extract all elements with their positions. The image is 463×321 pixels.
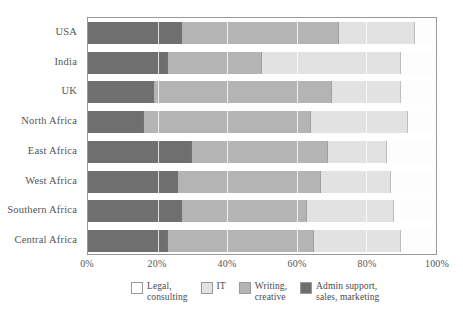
bar-segment xyxy=(314,230,401,252)
bar-segment xyxy=(311,111,408,133)
legend-swatch-icon xyxy=(131,282,143,294)
bar-row xyxy=(88,52,436,74)
x-axis-labels: 0%20%40%60%80%100% xyxy=(87,258,437,274)
bar-row xyxy=(88,141,436,163)
y-axis-tick-label: Central Africa xyxy=(14,234,77,245)
bar-segment xyxy=(88,81,154,103)
legend-swatch-icon xyxy=(239,282,251,294)
bar-segment xyxy=(144,111,311,133)
bar-segment xyxy=(192,141,328,163)
bar-segment xyxy=(401,230,436,252)
bar-segment xyxy=(88,171,178,193)
legend-label: Admin support, sales, marketing xyxy=(316,281,379,302)
legend-item-admin-support-sales-marketing[interactable]: Admin support, sales, marketing xyxy=(300,281,379,302)
legend-label: IT xyxy=(217,281,226,292)
bar-segment xyxy=(88,200,182,222)
bar-segment xyxy=(332,81,402,103)
legend-swatch-icon xyxy=(300,282,312,294)
y-axis-labels: USAIndiaUKNorth AfricaEast AfricaWest Af… xyxy=(0,17,82,255)
bar-segment xyxy=(321,171,391,193)
y-axis-tick-label: India xyxy=(54,56,77,67)
legend-item-legal-consulting[interactable]: Legal, consulting xyxy=(131,281,188,302)
y-axis-tick-label: USA xyxy=(55,26,77,37)
bar-row xyxy=(88,111,436,133)
x-axis-tick-label: 40% xyxy=(218,258,237,270)
x-axis-tick-label: 60% xyxy=(288,258,307,270)
legend-label: Writing, creative xyxy=(255,281,287,302)
x-axis-tick-label: 100% xyxy=(425,258,449,270)
bar-row xyxy=(88,230,436,252)
stacked-bar-chart: USAIndiaUKNorth AfricaEast AfricaWest Af… xyxy=(0,0,463,321)
bar-row xyxy=(88,22,436,44)
bar-segment xyxy=(394,200,436,222)
legend-swatch-icon xyxy=(201,282,213,294)
bar-segment xyxy=(339,22,416,44)
x-axis-tick-label: 0% xyxy=(80,258,94,270)
y-axis-tick-label: Southern Africa xyxy=(7,204,77,215)
plot-area xyxy=(87,17,437,255)
bar-row xyxy=(88,171,436,193)
bar-segment xyxy=(262,52,401,74)
y-axis-tick-label: West Africa xyxy=(25,175,77,186)
x-axis-tick-label: 80% xyxy=(358,258,377,270)
bar-segment xyxy=(182,22,339,44)
bar-row xyxy=(88,200,436,222)
y-axis-tick-label: UK xyxy=(61,85,77,96)
bar-segment xyxy=(88,22,182,44)
bar-segment xyxy=(178,171,321,193)
bar-segment xyxy=(328,141,387,163)
bar-segment xyxy=(387,141,436,163)
bar-segment xyxy=(401,52,436,74)
bar-segment xyxy=(307,200,394,222)
chart-legend: Legal, consultingITWriting, creativeAdmi… xyxy=(131,281,379,302)
legend-item-writing-creative[interactable]: Writing, creative xyxy=(239,281,287,302)
bar-segment xyxy=(88,52,168,74)
legend-label: Legal, consulting xyxy=(147,281,188,302)
x-axis-tick-label: 20% xyxy=(148,258,167,270)
bar-segment xyxy=(182,200,307,222)
bar-segment xyxy=(154,81,331,103)
bars-layer xyxy=(88,18,436,254)
bar-segment xyxy=(408,111,436,133)
y-axis-tick-label: East Africa xyxy=(28,145,77,156)
bar-row xyxy=(88,81,436,103)
bar-segment xyxy=(168,230,314,252)
bar-segment xyxy=(88,141,192,163)
bar-segment xyxy=(88,111,144,133)
y-axis-tick-label: North Africa xyxy=(21,115,77,126)
legend-item-it[interactable]: IT xyxy=(201,281,226,294)
bar-segment xyxy=(88,230,168,252)
bar-segment xyxy=(168,52,262,74)
bar-segment xyxy=(391,171,436,193)
bar-segment xyxy=(401,81,436,103)
bar-segment xyxy=(415,22,436,44)
